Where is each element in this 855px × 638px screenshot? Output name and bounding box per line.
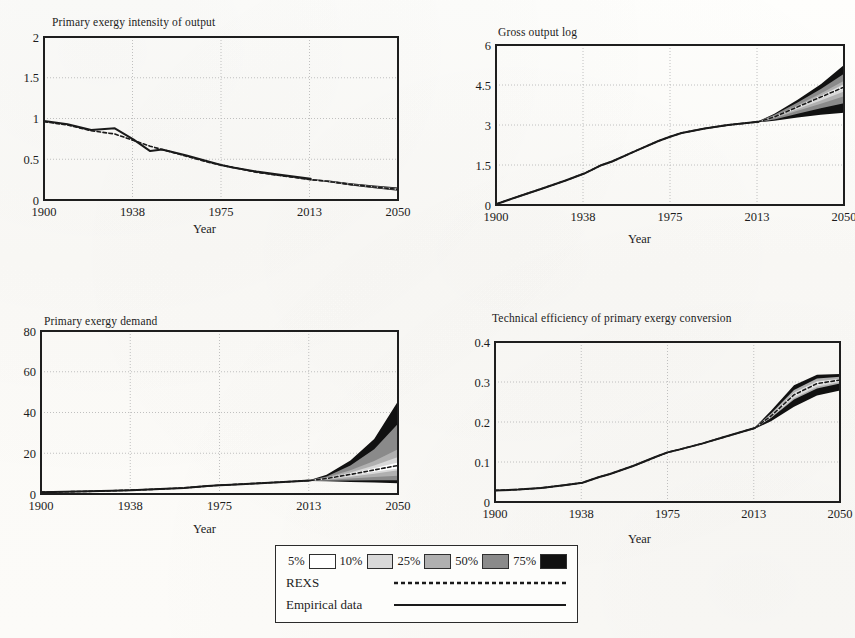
legend-swatch-25 <box>424 554 451 569</box>
svg-text:0.5: 0.5 <box>23 153 39 167</box>
svg-text:0.2: 0.2 <box>474 416 490 430</box>
chart-panel-gross-output-log: Gross output log 01.534.5619001938197520… <box>450 0 855 250</box>
svg-text:1975: 1975 <box>655 507 680 521</box>
svg-text:2050: 2050 <box>386 499 411 513</box>
legend-label-rexs: REXS <box>286 575 394 591</box>
legend-label-empirical: Empirical data <box>286 597 394 613</box>
svg-text:1900: 1900 <box>32 205 57 219</box>
legend: 5% 10% 25% 50% 75% REXS Empirical data <box>275 545 578 623</box>
svg-text:1975: 1975 <box>209 205 234 219</box>
chart-title: Technical efficiency of primary exergy c… <box>492 312 732 324</box>
svg-text:60: 60 <box>24 365 37 379</box>
chart-panel-technical-efficiency: Technical efficiency of primary exergy c… <box>450 300 855 550</box>
legend-band-label-25: 25% <box>395 554 422 569</box>
x-axis-label: Year <box>628 532 651 547</box>
legend-band-label-50: 50% <box>453 554 480 569</box>
svg-text:1.5: 1.5 <box>23 71 39 85</box>
legend-swatch-75 <box>540 554 567 569</box>
svg-text:1938: 1938 <box>118 499 143 513</box>
chart-svg: 00.10.20.30.419001938197520132050 <box>450 300 855 550</box>
chart-panel-primary-exergy-intensity: Primary exergy intensity of output 00.51… <box>0 0 430 250</box>
svg-text:1938: 1938 <box>571 210 596 224</box>
svg-text:2050: 2050 <box>832 210 855 224</box>
svg-text:2013: 2013 <box>297 205 322 219</box>
chart-panel-primary-exergy-demand: Primary exergy demand 020406080190019381… <box>0 300 430 550</box>
legend-band-label-10: 10% <box>338 554 365 569</box>
svg-text:40: 40 <box>24 406 37 420</box>
svg-text:0.3: 0.3 <box>474 376 490 390</box>
svg-text:1900: 1900 <box>484 210 509 224</box>
svg-text:80: 80 <box>24 325 37 339</box>
legend-swatch-50 <box>482 554 509 569</box>
legend-line-rexs-dashed <box>394 578 569 588</box>
svg-text:2013: 2013 <box>745 210 770 224</box>
svg-text:4.5: 4.5 <box>475 79 491 93</box>
legend-band-label-75: 75% <box>511 554 538 569</box>
dashed-line-icon <box>394 578 566 588</box>
solid-line-icon <box>394 600 566 610</box>
svg-text:1900: 1900 <box>483 507 508 521</box>
svg-text:1938: 1938 <box>569 507 594 521</box>
svg-text:1900: 1900 <box>29 499 54 513</box>
svg-text:2050: 2050 <box>828 507 853 521</box>
legend-row-bands: 5% 10% 25% 50% 75% <box>286 550 569 572</box>
svg-text:20: 20 <box>24 447 37 461</box>
svg-text:2: 2 <box>33 31 39 45</box>
chart-svg: 00.511.5219001938197520132050 <box>0 0 430 250</box>
svg-text:2013: 2013 <box>296 499 321 513</box>
svg-text:2050: 2050 <box>386 205 411 219</box>
legend-swatch-10 <box>367 554 394 569</box>
chart-title: Gross output log <box>498 26 577 38</box>
legend-line-empirical-solid <box>394 600 569 610</box>
svg-text:2013: 2013 <box>741 507 766 521</box>
svg-text:1938: 1938 <box>120 205 145 219</box>
legend-band-label-5: 5% <box>286 554 307 569</box>
chart-svg: 02040608019001938197520132050 <box>0 300 430 550</box>
svg-text:6: 6 <box>485 39 491 53</box>
svg-text:3: 3 <box>485 119 491 133</box>
chart-title: Primary exergy intensity of output <box>52 16 215 28</box>
svg-text:0.4: 0.4 <box>474 336 490 350</box>
chart-title: Primary exergy demand <box>44 315 157 327</box>
x-axis-label: Year <box>193 222 216 237</box>
svg-text:1: 1 <box>33 112 39 126</box>
svg-text:1975: 1975 <box>207 499 232 513</box>
x-axis-label: Year <box>628 232 651 247</box>
legend-row-empirical: Empirical data <box>286 594 569 616</box>
legend-swatch-5 <box>309 554 336 569</box>
svg-text:1975: 1975 <box>658 210 683 224</box>
svg-text:1.5: 1.5 <box>475 159 491 173</box>
legend-row-rexs: REXS <box>286 572 569 594</box>
svg-text:0.1: 0.1 <box>474 456 490 470</box>
x-axis-label: Year <box>193 522 216 537</box>
